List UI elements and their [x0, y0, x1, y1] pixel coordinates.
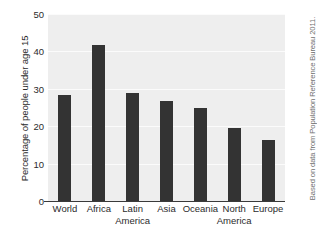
bar-europe: [262, 140, 275, 201]
gridline: [48, 89, 285, 90]
x-tick-label-line2: America: [204, 215, 264, 227]
y-tick-label: 20: [4, 121, 44, 132]
y-tick-label: 50: [4, 9, 44, 20]
x-tick-label-line2: America: [103, 215, 163, 227]
x-tick-label: Europe: [238, 203, 298, 215]
bar-asia: [160, 101, 173, 201]
x-axis-line: [44, 201, 285, 202]
y-tick-label: 10: [4, 158, 44, 169]
bar-chart-figure: Percentage of people under age 15 Based …: [0, 0, 317, 239]
chart-attribution: Based on data from Population Reference …: [308, 0, 317, 222]
y-tick-label: 40: [4, 46, 44, 57]
y-tick-label: 30: [4, 83, 44, 94]
gridline: [48, 14, 285, 15]
plot-area: [48, 14, 285, 201]
bar-world: [58, 95, 71, 201]
bar-latin-america: [126, 93, 139, 201]
x-axis-tick-labels: WorldAfricaLatinAmericaAsiaOceaniaNorthA…: [48, 203, 285, 239]
bar-north-america: [228, 128, 241, 201]
gridline: [48, 51, 285, 52]
x-tick-label-line1: Europe: [253, 203, 284, 214]
bar-africa: [92, 45, 105, 201]
bar-oceania: [194, 108, 207, 201]
